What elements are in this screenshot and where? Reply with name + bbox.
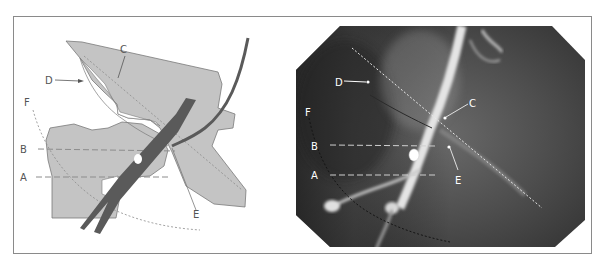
angiogram-label-e: E <box>455 175 461 186</box>
angiogram-label-f: F <box>305 107 311 118</box>
figure-canvas: C D F B A E <box>0 0 605 266</box>
schematic-label-e: E <box>193 209 199 220</box>
schematic-label-b: B <box>20 144 27 155</box>
angiogram-label-d: D <box>335 77 343 88</box>
angiogram-label-b: B <box>311 141 318 152</box>
schematic-label-f: F <box>24 97 30 108</box>
angiogram-label-c: C <box>469 98 476 109</box>
schematic-panel: C D F B A E <box>20 38 248 234</box>
schematic-label-d: D <box>45 75 53 86</box>
angiogram-panel: C D F B A E <box>290 20 590 252</box>
angiogram-label-a: A <box>311 170 318 181</box>
schematic-label-c: C <box>120 44 127 55</box>
schematic-label-a: A <box>20 172 27 183</box>
